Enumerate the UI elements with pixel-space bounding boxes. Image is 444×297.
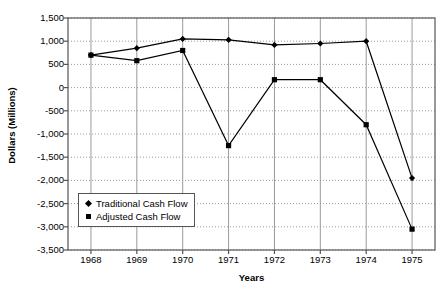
x-axis-tick-label: 1968 (65, 255, 117, 265)
legend-item-traditional-cash-flow: Traditional Cash Flow (83, 197, 188, 210)
square-marker-icon (83, 214, 94, 219)
x-axis-tick-label: 1972 (248, 255, 300, 265)
legend-label: Adjusted Cash Flow (94, 211, 180, 222)
x-axis-tick-label: 1969 (111, 255, 163, 265)
x-axis-tick-label: 1971 (203, 255, 255, 265)
x-axis-title: Years (68, 272, 435, 283)
x-axis-tick-labels: 19681969197019711972197319741975 (0, 255, 444, 271)
legend-item-adjusted-cash-flow: Adjusted Cash Flow (83, 210, 188, 223)
legend-label: Traditional Cash Flow (94, 198, 188, 209)
x-axis-tick-label: 1970 (157, 255, 209, 265)
chart-figure: Dollars (Millions) 1,5001,0005000-500-1,… (0, 0, 444, 297)
x-axis-tick-label: 1975 (386, 255, 438, 265)
chart-legend: Traditional Cash Flow Adjusted Cash Flow (78, 193, 195, 227)
x-axis-tick-label: 1973 (294, 255, 346, 265)
x-axis-tick-label: 1974 (340, 255, 392, 265)
x-axis-title-text: Years (239, 272, 264, 283)
diamond-marker-icon (83, 201, 94, 206)
plot-area (0, 0, 444, 297)
